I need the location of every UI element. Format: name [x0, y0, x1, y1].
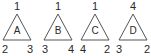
triangle-d-bottom-right-number: 2 [144, 44, 150, 55]
triangle-a: 1 A 2 3 [0, 0, 38, 56]
triangle-b-bottom-left-number: 3 [42, 44, 48, 55]
triangle-b-top-number: 1 [55, 1, 61, 12]
triangle-c-top-number: 1 [92, 1, 98, 12]
triangle-b: 1 B 3 4 [38, 0, 76, 56]
triangle-a-label: A [7, 26, 27, 36]
triangle-b-label: B [48, 26, 68, 36]
triangle-c-label: C [85, 26, 105, 36]
triangle-a-top-number: 1 [14, 1, 20, 12]
triangle-d-top-number: 4 [130, 1, 136, 12]
triangle-c-bottom-right-number: 2 [104, 44, 110, 55]
triangle-c-bottom-left-number: 4 [80, 44, 86, 55]
triangle-d-label: D [123, 26, 143, 36]
triangle-a-bottom-right-number: 3 [27, 44, 33, 55]
triangle-c: 1 C 4 2 [75, 0, 113, 56]
triangle-b-bottom-right-number: 4 [68, 44, 74, 55]
triangle-d-bottom-left-number: 3 [116, 44, 122, 55]
triangle-d: 4 D 3 2 [113, 0, 151, 56]
triangle-a-bottom-left-number: 2 [2, 44, 8, 55]
